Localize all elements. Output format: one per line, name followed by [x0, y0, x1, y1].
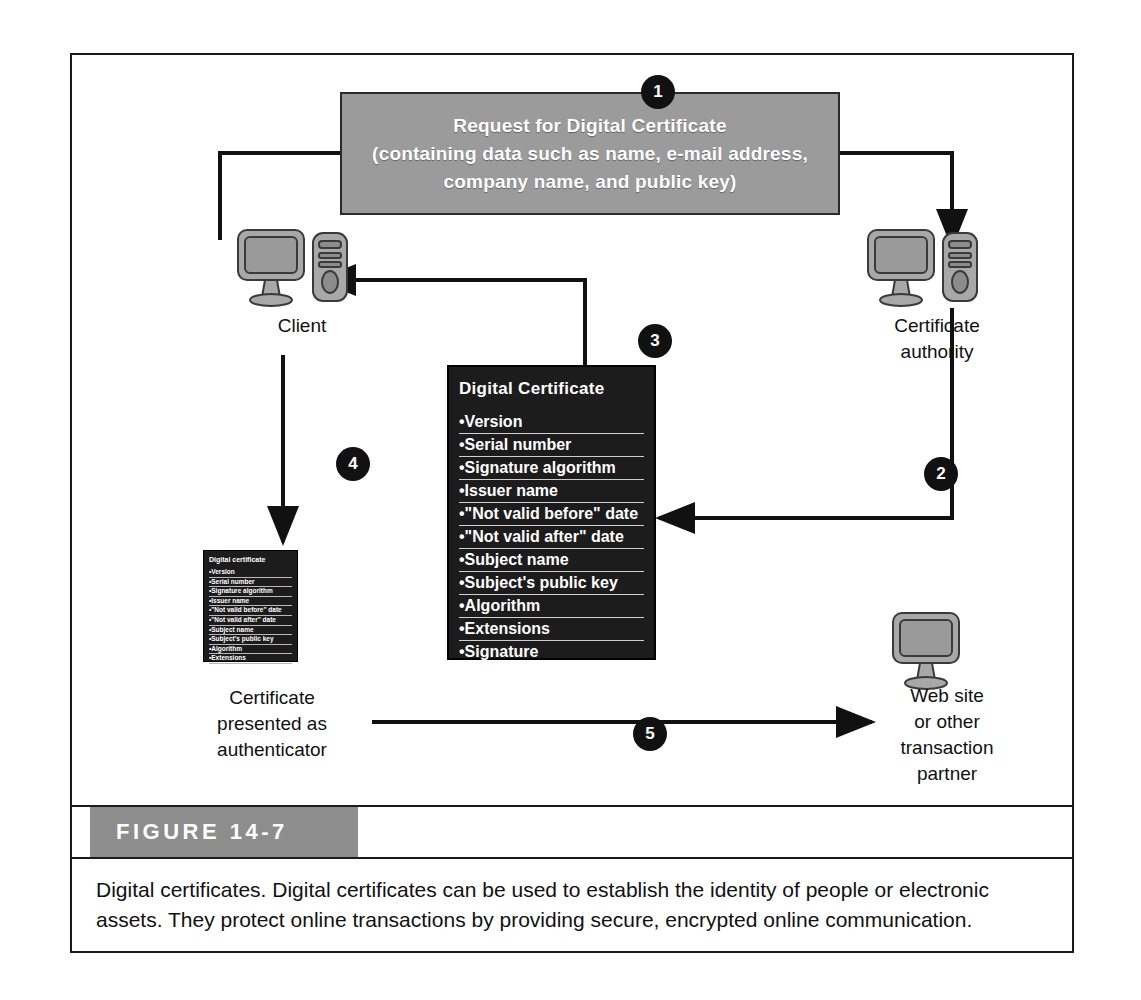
- mini-certificate-field: •Signature algorithm: [209, 587, 292, 597]
- mini-certificate-field: •Serial number: [209, 578, 292, 588]
- step-badge-1: 1: [641, 75, 675, 109]
- step-badge-4: 4: [336, 447, 370, 481]
- request-box-line-2: (containing data such as name, e-mail ad…: [372, 140, 808, 168]
- figure-frame: Request for Digital Certificate (contain…: [70, 53, 1074, 953]
- step-badge-5: 5: [633, 717, 667, 751]
- certificate-field: •"Not valid before" date: [459, 503, 644, 526]
- diagram-area: Request for Digital Certificate (contain…: [72, 55, 1072, 805]
- figure-tab-row: FIGURE 14-7: [72, 805, 1072, 859]
- monitor-icon-website: [890, 610, 968, 694]
- website-label-line-4: partner: [862, 761, 1032, 787]
- request-box-text: Request for Digital Certificate (contain…: [364, 112, 816, 196]
- figure-number-label: FIGURE 14-7: [116, 819, 288, 845]
- node-label-certificate-authority: Certificate authority: [862, 313, 1012, 365]
- mini-certificate-field: •"Not valid before" date: [209, 606, 292, 616]
- certificate-field: •Signature: [459, 641, 644, 663]
- presented-label-line-1: Certificate: [182, 685, 362, 711]
- certificate-field: •Algorithm: [459, 595, 644, 618]
- request-for-certificate-box: Request for Digital Certificate (contain…: [340, 92, 840, 215]
- ca-label-line-2: authority: [862, 339, 1012, 365]
- certificate-field: •Signature algorithm: [459, 457, 644, 480]
- mini-certificate-field: •Subject's public key: [209, 635, 292, 645]
- website-label-line-2: or other: [862, 709, 1032, 735]
- mini-certificate-title: Digital certificate: [209, 556, 292, 563]
- figure-caption: Digital certificates. Digital certificat…: [72, 859, 1072, 935]
- website-label-line-3: transaction: [862, 735, 1032, 761]
- step-badge-3: 3: [638, 324, 672, 358]
- node-label-client: Client: [232, 313, 372, 339]
- figure-number-tab: FIGURE 14-7: [90, 807, 358, 857]
- ca-label-line-1: Certificate: [862, 313, 1012, 339]
- desktop-computer-icon-client: [235, 227, 355, 313]
- request-box-line-3: company name, and public key): [372, 168, 808, 196]
- mini-certificate-field: •Signature: [209, 664, 292, 673]
- node-label-website: Web site or other transaction partner: [862, 683, 1032, 787]
- certificate-field: •Extensions: [459, 618, 644, 641]
- client-label-text: Client: [232, 313, 372, 339]
- mini-certificate-field: •Version: [209, 568, 292, 578]
- request-box-line-1: Request for Digital Certificate: [372, 112, 808, 140]
- digital-certificate-box: Digital Certificate •Version •Serial num…: [447, 365, 656, 660]
- certificate-field: •"Not valid after" date: [459, 526, 644, 549]
- certificate-title: Digital Certificate: [459, 379, 644, 399]
- mini-certificate-field: •Issuer name: [209, 597, 292, 607]
- mini-certificate-field: •"Not valid after" date: [209, 616, 292, 626]
- presented-label-line-3: authenticator: [182, 737, 362, 763]
- mini-certificate-field: •Extensions: [209, 654, 292, 664]
- certificate-field: •Subject name: [459, 549, 644, 572]
- website-label-line-1: Web site: [862, 683, 1032, 709]
- certificate-field: •Issuer name: [459, 480, 644, 503]
- presented-label-line-2: presented as: [182, 711, 362, 737]
- certificate-field: •Subject's public key: [459, 572, 644, 595]
- certificate-field: •Serial number: [459, 434, 644, 457]
- mini-certificate-field: •Subject name: [209, 626, 292, 636]
- mini-digital-certificate: Digital certificate •Version •Serial num…: [203, 550, 298, 662]
- step-badge-2: 2: [924, 457, 958, 491]
- node-label-presented-certificate: Certificate presented as authenticator: [182, 685, 362, 763]
- mini-certificate-field: •Algorithm: [209, 645, 292, 655]
- certificate-field: •Version: [459, 411, 644, 434]
- desktop-computer-icon-certificate-authority: [865, 227, 985, 313]
